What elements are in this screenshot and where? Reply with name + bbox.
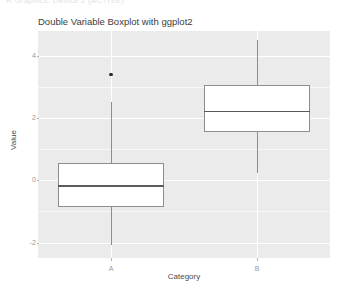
gridline-major bbox=[38, 56, 330, 57]
median-line bbox=[204, 111, 310, 112]
y-tick-mark bbox=[37, 118, 40, 119]
y-tick-label: 4 bbox=[10, 52, 36, 60]
x-axis-title: Category bbox=[38, 272, 330, 282]
outlier-point bbox=[109, 73, 112, 76]
gridline-minor bbox=[38, 149, 330, 150]
y-tick-label: -2 bbox=[10, 239, 36, 247]
chart-title: Double Variable Boxplot with ggplot2 bbox=[38, 16, 193, 28]
plot-panel bbox=[38, 31, 330, 258]
window-title-strip: R Graphics: Device 2 (ACTIVE) bbox=[6, 0, 286, 5]
y-tick-mark bbox=[37, 243, 40, 244]
y-tick-mark bbox=[37, 180, 40, 181]
box-rect bbox=[204, 85, 310, 132]
y-axis-title: Value bbox=[9, 110, 19, 170]
x-tick-mark bbox=[111, 258, 112, 261]
y-tick-label: 0 bbox=[10, 176, 36, 184]
x-tick-mark bbox=[257, 258, 258, 261]
gridline-major bbox=[38, 243, 330, 244]
gridline-minor bbox=[38, 211, 330, 212]
median-line bbox=[58, 185, 164, 186]
y-tick-mark bbox=[37, 56, 40, 57]
ggplot-figure: R Graphics: Device 2 (ACTIVE) Double Var… bbox=[0, 0, 350, 295]
